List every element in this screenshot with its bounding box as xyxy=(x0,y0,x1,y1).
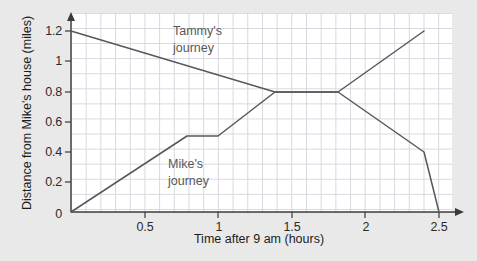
x-axis-arrow-icon xyxy=(455,208,464,216)
series-annotation-tammys-journey-line1: Tammy's xyxy=(173,23,222,40)
x-tick-label-2: 2 xyxy=(363,220,370,234)
line-chart: 1.2 1 0.8 0.6 0.4 0.2 0 0.5 1 1.5 2 2.5 … xyxy=(0,0,477,261)
series-annotation-mikes-journey-line1: Mike's xyxy=(168,156,209,173)
series-line-mikes-journey xyxy=(71,31,424,212)
series-annotation-mikes-journey-line2: journey xyxy=(168,173,209,190)
y-axis-title: Distance from Mike's house (miles) xyxy=(20,16,34,210)
series-line-tammys-journey xyxy=(71,31,439,212)
chart-plot-svg xyxy=(0,0,477,261)
x-tick-label-0-5: 0.5 xyxy=(137,220,154,234)
series-annotation-tammys-journey-line2: journey xyxy=(173,40,222,57)
x-axis-title: Time after 9 am (hours) xyxy=(194,232,324,246)
series-annotation-mikes-journey: Mike's journey xyxy=(168,156,209,190)
y-axis-ticks xyxy=(65,31,71,182)
series-annotation-tammys-journey: Tammy's journey xyxy=(173,23,222,57)
x-tick-label-2-5: 2.5 xyxy=(431,220,448,234)
x-axis-ticks xyxy=(145,212,439,218)
y-axis-arrow-icon xyxy=(67,12,75,21)
